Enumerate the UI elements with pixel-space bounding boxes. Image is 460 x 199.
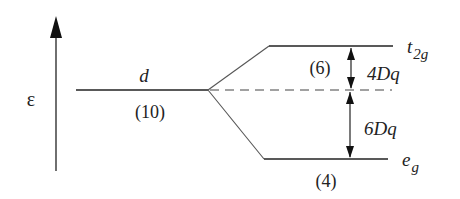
shift-label-4dq: 4Dq (367, 63, 400, 84)
arrowhead-up-icon (347, 48, 355, 60)
t2g-degeneracy: (6) (310, 58, 331, 79)
arrowhead-down-icon (346, 146, 354, 158)
arrowhead-down-icon (347, 77, 355, 89)
eg-level-label: eg (402, 149, 419, 175)
energy-axis-label: ε (27, 88, 35, 110)
crystal-field-splitting-diagram: ε d (10) t2g (6) eg (4) 4Dq (0, 0, 460, 199)
d-level: d (10) (76, 65, 208, 123)
d-level-degeneracy: (10) (135, 102, 165, 123)
splitting-connectors (208, 46, 269, 159)
d-level-label: d (139, 65, 149, 86)
eg-degeneracy: (4) (316, 171, 337, 192)
shift-label-6dq: 6Dq (364, 118, 397, 139)
shift-arrow-4dq: 4Dq (347, 48, 400, 89)
eg-level: eg (4) (264, 149, 419, 192)
shift-arrow-6dq: 6Dq (346, 92, 397, 158)
t2g-level-label: t2g (407, 36, 429, 62)
energy-axis-arrowhead-icon (50, 16, 62, 38)
arrowhead-up-icon (346, 92, 354, 104)
energy-axis: ε (27, 16, 62, 171)
